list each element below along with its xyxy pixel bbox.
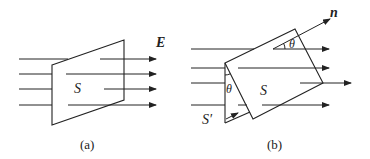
surface-label-s-prime: S′: [202, 113, 212, 127]
angle-label-top: θ: [289, 38, 295, 50]
angle-label-side: θ: [226, 83, 232, 95]
surface-label-s-b: S: [260, 84, 267, 98]
figure-b: [191, 19, 351, 123]
diagram-canvas: [0, 0, 370, 159]
normal-vector: [273, 19, 330, 49]
normal-label-n: n: [330, 6, 338, 20]
figure-a: [19, 40, 156, 125]
caption-a: (a): [80, 138, 94, 151]
caption-b: (b): [267, 138, 282, 151]
surface-s-a: [52, 40, 124, 125]
surface-label-s-a: S: [74, 82, 81, 96]
field-label-e: E: [156, 36, 165, 50]
